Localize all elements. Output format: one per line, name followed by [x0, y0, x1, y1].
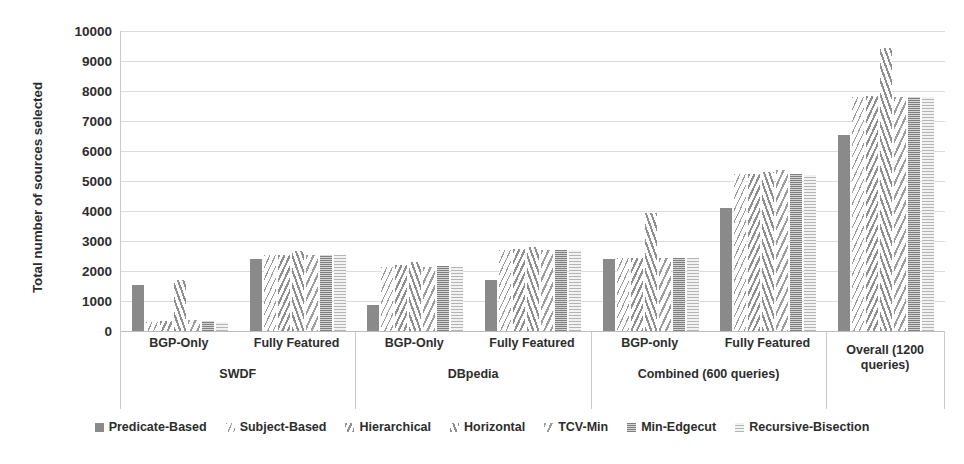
legend-swatch-icon	[345, 423, 354, 432]
y-axis-ticks: 1000090008000700060005000400030002000100…	[0, 31, 112, 331]
bar	[485, 280, 497, 331]
legend-label: Subject-Based	[240, 420, 327, 434]
bar	[202, 321, 214, 331]
y-axis-tick-label: 7000	[2, 114, 112, 129]
y-axis-tick-label: 1000	[2, 294, 112, 309]
y-axis-tick-label: 0	[2, 324, 112, 339]
bar	[513, 249, 525, 332]
legend-swatch-icon	[450, 423, 459, 432]
bar	[734, 174, 746, 331]
bar	[776, 170, 788, 331]
bar	[922, 97, 934, 331]
bar-group	[592, 31, 710, 331]
bar	[292, 251, 304, 331]
bar-group	[239, 31, 357, 331]
legend-item[interactable]: Predicate-Based	[95, 420, 207, 434]
bar	[673, 258, 685, 331]
legend-label: Horizontal	[464, 420, 525, 434]
legend-label: Hierarchical	[359, 420, 431, 434]
bars-layer	[121, 31, 945, 331]
bar	[894, 97, 906, 331]
bar	[645, 213, 657, 332]
bar	[569, 250, 581, 331]
y-axis-tick-label: 2000	[2, 264, 112, 279]
bar-chart: Total number of sources selected 1000090…	[0, 0, 964, 464]
bar	[381, 267, 393, 331]
category-axis: BGP-OnlyFully FeaturedSWDFBGP-OnlyFully …	[120, 331, 944, 409]
bar	[838, 135, 850, 332]
axis-group-label: DBpedia	[359, 367, 586, 382]
bar	[132, 285, 144, 332]
legend-item[interactable]: Hierarchical	[345, 420, 431, 434]
axis-sublabel: Fully Featured	[725, 336, 810, 350]
bar	[908, 97, 920, 331]
axis-sublabel: BGP-only	[621, 336, 678, 350]
bar	[395, 265, 407, 331]
axis-group-label: SWDF	[124, 367, 351, 382]
bar	[423, 267, 435, 332]
axis-separator	[826, 331, 827, 409]
axis-separator	[120, 331, 121, 409]
plot-area	[120, 31, 945, 331]
legend-swatch-icon	[544, 423, 553, 432]
bar	[278, 255, 290, 331]
bar	[306, 255, 318, 331]
bar	[720, 208, 732, 331]
y-axis-tick-label: 3000	[2, 234, 112, 249]
axis-sublabel: BGP-Only	[385, 336, 444, 350]
bar	[160, 321, 172, 331]
legend-label: TCV-Min	[558, 420, 608, 434]
bar	[804, 175, 816, 331]
bar	[603, 259, 615, 331]
y-axis-tick-label: 10000	[2, 24, 112, 39]
bar	[188, 320, 200, 331]
bar	[541, 250, 553, 331]
axis-sublabel: BGP-Only	[149, 336, 208, 350]
bar	[437, 266, 449, 331]
axis-separator	[591, 331, 592, 409]
bar-group	[121, 31, 239, 331]
y-axis-tick-label: 9000	[2, 54, 112, 69]
bar	[880, 48, 892, 332]
legend-item[interactable]: Subject-Based	[226, 420, 327, 434]
bar	[174, 280, 186, 331]
bar	[146, 322, 158, 331]
bar	[409, 262, 421, 331]
bar	[555, 250, 567, 331]
bar	[320, 255, 332, 331]
bar-group	[827, 31, 945, 331]
legend-item[interactable]: TCV-Min	[544, 420, 608, 434]
axis-separator-inner	[473, 331, 474, 365]
axis-group-label: Overall (1200 queries)	[830, 343, 940, 373]
bar	[866, 96, 878, 331]
legend-item[interactable]: Min-Edgecut	[627, 420, 716, 434]
bar	[367, 305, 379, 331]
bar	[264, 255, 276, 331]
legend-item[interactable]: Recursive-Bisection	[735, 420, 869, 434]
y-axis-tick-label: 8000	[2, 84, 112, 99]
y-axis-tick-label: 5000	[2, 174, 112, 189]
y-axis-tick-label: 6000	[2, 144, 112, 159]
axis-separator	[944, 331, 945, 409]
bar-group	[710, 31, 828, 331]
axis-group-label: Combined (600 queries)	[595, 367, 822, 382]
bar	[790, 174, 802, 331]
bar	[659, 258, 671, 331]
bar	[499, 250, 511, 331]
axis-sublabel: Fully Featured	[489, 336, 574, 350]
axis-sublabel: Fully Featured	[254, 336, 339, 350]
axis-separator-inner	[709, 331, 710, 365]
chart-legend: Predicate-BasedSubject-BasedHierarchical…	[0, 420, 964, 434]
legend-swatch-icon	[627, 423, 636, 432]
bar	[617, 258, 629, 331]
bar	[451, 267, 463, 332]
axis-separator-inner	[238, 331, 239, 365]
legend-item[interactable]: Horizontal	[450, 420, 525, 434]
legend-label: Min-Edgecut	[641, 420, 716, 434]
bar	[250, 259, 262, 331]
bar	[527, 247, 539, 331]
bar	[631, 258, 643, 331]
y-axis-tick-label: 4000	[2, 204, 112, 219]
legend-swatch-icon	[226, 423, 235, 432]
legend-swatch-icon	[735, 423, 744, 432]
